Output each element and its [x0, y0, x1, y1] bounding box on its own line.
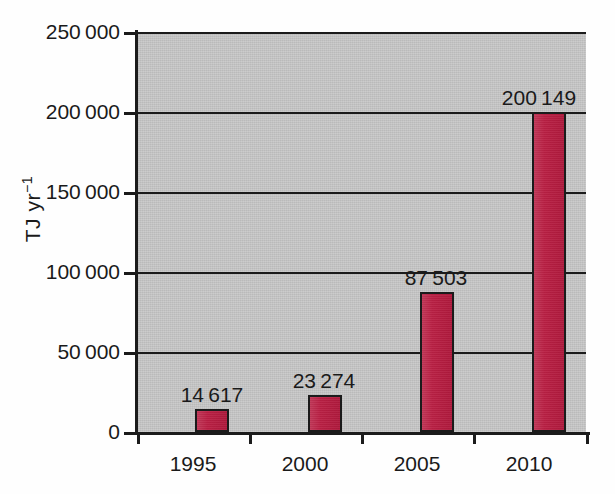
y-axis-title-base: TJ yr [21, 193, 44, 242]
y-tick-label-100000: 100 000 [0, 260, 120, 284]
x-tick-label-1995: 1995 [137, 452, 249, 476]
gridline-50000 [137, 352, 586, 354]
x-tick-label-2010: 2010 [473, 452, 585, 476]
y-axis-title: TJ yr−1 [19, 129, 45, 289]
y-tick-50000 [124, 352, 137, 355]
bar-1995 [195, 409, 229, 432]
gridline-200000 [137, 112, 586, 114]
bar-2010 [532, 112, 566, 432]
y-axis-title-exponent: −1 [19, 176, 35, 193]
bar-value-label-2010: 200 149 [464, 86, 614, 110]
gridline-250000 [137, 32, 586, 34]
y-tick-label-0: 0 [0, 420, 120, 444]
y-tick-150000 [124, 192, 137, 195]
y-tick-200000 [124, 112, 137, 115]
bar-2005 [420, 292, 454, 432]
bar-2000 [308, 395, 342, 432]
x-tick-label-2000: 2000 [249, 452, 361, 476]
gridline-150000 [137, 192, 586, 194]
y-tick-label-250000: 250 000 [0, 20, 120, 44]
y-tick-250000 [124, 32, 137, 35]
bar-value-label-2005: 87 503 [361, 266, 511, 290]
x-tick-start [137, 432, 140, 444]
y-tick-label-150000: 150 000 [0, 180, 120, 204]
y-tick-label-50000: 50 000 [0, 340, 120, 364]
x-tick-1 [249, 432, 252, 444]
x-tick-label-2005: 2005 [361, 452, 473, 476]
x-tick-3 [473, 432, 476, 444]
y-axis-line [135, 30, 138, 434]
y-tick-100000 [124, 272, 137, 275]
bar-chart-figure: 250 000 200 000 150 000 100 000 50 000 0… [0, 0, 615, 494]
x-tick-2 [361, 432, 364, 444]
bar-value-label-2000: 23 274 [249, 369, 399, 393]
y-tick-label-200000: 200 000 [0, 100, 120, 124]
x-tick-end [586, 432, 589, 444]
